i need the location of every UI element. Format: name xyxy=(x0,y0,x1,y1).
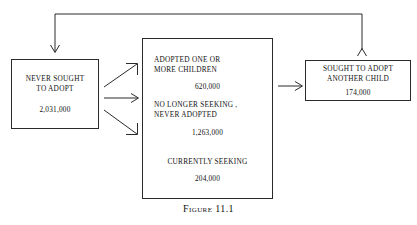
node-outcomes-group: ADOPTED ONE OR MORE CHILDREN 620,000 NO … xyxy=(142,38,273,199)
node-sought-another-label: SOUGHT TO ADOPT ANOTHER CHILD xyxy=(323,64,393,83)
node-sought-to-adopt-another-child: SOUGHT TO ADOPT ANOTHER CHILD 174,000 xyxy=(305,60,411,101)
node-never-sought-label: NEVER SOUGHT TO ADOPT xyxy=(26,74,85,93)
outcome-no-longer-seeking: NO LONGER SEEKING , NEVER ADOPTED 1,263,… xyxy=(154,100,261,136)
figure-caption: Figure 11.1 xyxy=(0,203,417,214)
outcome-adopted-value: 620,000 xyxy=(154,82,261,91)
figure-container: NEVER SOUGHT TO ADOPT 2,031,000 ADOPTED … xyxy=(0,0,417,225)
outcome-currently-seeking: CURRENTLY SEEKING 204,000 xyxy=(154,157,261,184)
outcome-adopted-label: ADOPTED ONE OR MORE CHILDREN xyxy=(154,55,261,74)
node-never-sought-value: 2,031,000 xyxy=(40,105,71,114)
arrow-never-sought-to-currently-seeking xyxy=(104,110,138,135)
outcome-no-longer-seeking-value: 1,263,000 xyxy=(154,128,261,137)
node-never-sought-to-adopt: NEVER SOUGHT TO ADOPT 2,031,000 xyxy=(11,59,99,129)
node-sought-another-value: 174,000 xyxy=(345,88,370,97)
arrow-never-sought-to-adopted xyxy=(104,64,138,88)
arrow-adopted-to-sought-another xyxy=(278,82,303,91)
outcome-currently-seeking-value: 204,000 xyxy=(154,174,261,183)
outcome-currently-seeking-label: CURRENTLY SEEKING xyxy=(154,157,261,167)
arrow-never-sought-to-no-longer-seeking xyxy=(104,94,139,103)
outcome-adopted: ADOPTED ONE OR MORE CHILDREN 620,000 xyxy=(154,55,261,91)
outcome-no-longer-seeking-label: NO LONGER SEEKING , NEVER ADOPTED xyxy=(154,100,261,119)
